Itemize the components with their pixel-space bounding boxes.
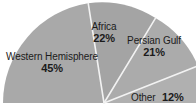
pie-label-other: Other 12% <box>131 88 195 105</box>
pie-label-western-hemisphere-name: Western Hemisphere <box>6 52 98 63</box>
pie-label-africa-value: 22% <box>79 33 129 45</box>
pie-label-persian-gulf-value: 21% <box>127 47 181 59</box>
pie-label-africa-name: Africa <box>79 22 129 33</box>
pie-label-western-hemisphere-value: 45% <box>6 63 98 75</box>
pie-label-other-value: 12% <box>162 91 184 103</box>
pie-chart-figure: Western Hemisphere 45% Africa 22% Persia… <box>0 0 196 109</box>
pie-label-africa: Africa 22% <box>79 22 129 44</box>
pie-label-persian-gulf-name: Persian Gulf <box>127 36 181 47</box>
pie-label-other-name: Other <box>131 92 156 103</box>
pie-label-western-hemisphere: Western Hemisphere 45% <box>6 52 98 74</box>
pie-label-persian-gulf: Persian Gulf 21% <box>127 36 181 58</box>
